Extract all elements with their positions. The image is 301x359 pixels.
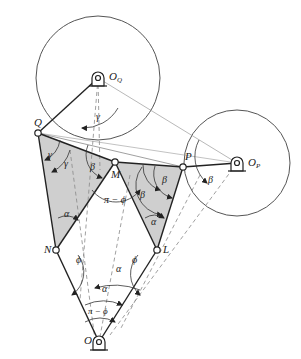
- angle-label-alpha-2: α: [151, 216, 157, 227]
- angle-label-pi-minus-phi-bottom: π − ϕ: [88, 306, 108, 316]
- joint-l: [154, 247, 160, 253]
- joint-p: [180, 164, 186, 170]
- joint-n: [53, 247, 59, 253]
- ref-line-oq-op: [98, 78, 237, 163]
- label-op: OP: [248, 156, 261, 170]
- label-l: L: [162, 243, 169, 255]
- joint-m: [112, 159, 118, 165]
- joint-q: [35, 130, 41, 136]
- angle-label-phi-left: ϕ: [76, 254, 81, 265]
- linkage-diagram: OQ OP Q M P N L O γ γ γ β β β β π − ϕ α …: [0, 0, 301, 359]
- angle-label-alpha-3: α: [116, 263, 122, 274]
- angle-label-gamma-1: γ: [96, 111, 101, 122]
- angle-label-beta-1: β: [89, 161, 95, 172]
- ground-pivot-o: [90, 336, 108, 350]
- angle-label-beta-4: β: [207, 174, 213, 185]
- angle-label-phi-right: ϕ: [132, 254, 137, 265]
- angle-label-pi-minus-phi-top: π − ϕ: [104, 194, 126, 205]
- label-n: N: [43, 243, 52, 255]
- label-p: P: [184, 150, 192, 162]
- shaded-triangle-right: [115, 162, 183, 250]
- label-m: M: [110, 168, 121, 180]
- angle-label-alpha-4: α: [102, 283, 108, 294]
- angle-label-alpha-1: α: [64, 208, 70, 219]
- label-oq: OQ: [109, 70, 122, 84]
- label-o: O: [84, 334, 92, 346]
- label-q: Q: [34, 116, 42, 128]
- ground-pivot-oq: [89, 72, 107, 86]
- angle-label-beta-2: β: [161, 174, 167, 185]
- angle-label-beta-3: β: [139, 189, 145, 200]
